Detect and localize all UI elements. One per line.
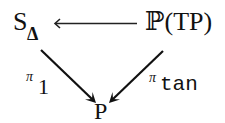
label-pi1-symbol: π <box>26 70 33 84</box>
node-s-delta-main: S <box>13 9 27 35</box>
arrow-ptp-to-sdelta <box>55 19 137 28</box>
label-pitan-subscript: tan <box>160 74 198 95</box>
label-pitan-symbol: π <box>149 71 156 85</box>
arrow-sdelta-to-p <box>41 50 96 103</box>
node-projectivized-tangent: ℙ(TP) <box>145 9 212 35</box>
label-pi1-subscript: 1 <box>38 76 49 98</box>
node-p: P <box>94 99 107 123</box>
node-s-delta-subscript: Δ <box>27 25 38 43</box>
